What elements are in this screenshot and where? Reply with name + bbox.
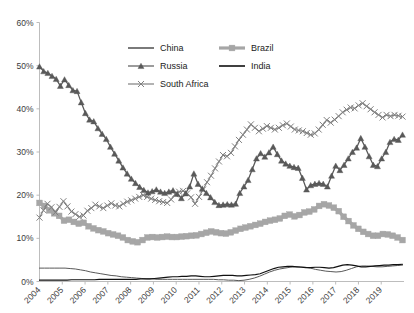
data-point-marker [329, 173, 335, 178]
data-point-marker [196, 194, 202, 200]
data-point-marker [279, 158, 285, 163]
data-point-marker [320, 122, 326, 128]
y-tick-label: 50% [16, 61, 33, 71]
series-russia [37, 64, 406, 208]
data-point-marker [64, 203, 70, 209]
legend-item-china[interactable]: China [128, 43, 184, 53]
data-point-marker [56, 204, 62, 210]
data-point-marker [212, 165, 218, 171]
x-tick-label: 2008 [113, 285, 134, 306]
x-tick-label: 2006 [68, 285, 89, 306]
legend-item-brazil[interactable]: Brazil [219, 43, 274, 53]
data-point-marker [368, 106, 374, 112]
data-point-marker [120, 165, 126, 170]
chart-container: 0%10%20%30%40%50%60% 2004200520062007200… [0, 0, 414, 313]
data-point-marker [87, 117, 93, 122]
legend-item-india[interactable]: India [219, 61, 271, 71]
x-tick-label: 2017 [318, 285, 339, 306]
data-point-marker [333, 163, 339, 168]
data-point-marker [229, 45, 235, 51]
data-point-marker [241, 184, 247, 189]
legend-label: South Africa [160, 79, 209, 89]
y-tick-label: 20% [16, 190, 33, 200]
x-tick-label: 2018 [341, 285, 362, 306]
x-axis: 2004200520062007200820092010201120122013… [22, 282, 404, 306]
data-point-marker [366, 153, 372, 158]
x-tick-label: 2016 [295, 285, 316, 306]
x-tick-label: 2011 [182, 285, 202, 305]
y-tick-label: 0% [21, 277, 34, 287]
data-point-marker [170, 188, 176, 193]
x-tick-label: 2009 [136, 285, 157, 306]
x-tick-label: 2004 [22, 285, 43, 306]
data-point-marker [258, 150, 264, 155]
data-point-marker [370, 162, 376, 167]
legend-label: India [251, 61, 271, 71]
data-point-marker [379, 156, 385, 161]
data-point-marker [187, 184, 193, 189]
data-point-marker [240, 132, 246, 138]
data-point-marker [358, 135, 364, 140]
data-point-marker [341, 162, 347, 167]
legend-label: China [160, 43, 184, 53]
x-tick-label: 2010 [159, 285, 180, 306]
data-point-marker [82, 110, 88, 115]
y-tick-label: 10% [16, 233, 33, 243]
data-point-marker [153, 187, 159, 192]
data-point-marker [245, 177, 251, 182]
data-point-marker [191, 171, 197, 176]
data-point-marker [345, 156, 351, 161]
data-point-marker [37, 64, 43, 69]
data-point-marker [216, 158, 222, 164]
legend-item-south-africa[interactable]: South Africa [128, 79, 209, 89]
data-point-marker [236, 137, 242, 143]
x-tick-label: 2007 [90, 285, 111, 306]
data-point-marker [57, 83, 63, 88]
y-tick-label: 60% [16, 18, 33, 28]
data-point-marker [60, 198, 66, 204]
data-point-marker [400, 132, 406, 137]
data-point-marker [208, 173, 214, 179]
data-point-marker [299, 175, 305, 180]
legend-item-russia[interactable]: Russia [128, 61, 188, 71]
y-tick-label: 40% [16, 104, 33, 114]
data-point-marker [244, 127, 250, 133]
y-axis: 0%10%20%30%40%50%60% [16, 18, 39, 287]
data-point-marker [354, 145, 360, 150]
data-point-marker [107, 144, 113, 149]
data-point-marker [228, 150, 234, 156]
data-point-marker [400, 237, 406, 243]
data-point-marker [237, 190, 243, 195]
data-point-marker [62, 77, 68, 82]
data-point-marker [232, 143, 238, 149]
x-tick-label: 2014 [250, 285, 271, 306]
x-tick-label: 2005 [45, 285, 66, 306]
series-line [40, 265, 403, 281]
chart-legend: ChinaBrazilRussiaIndiaSouth Africa [128, 43, 274, 89]
line-chart: 0%10%20%30%40%50%60% 2004200520062007200… [0, 0, 414, 313]
data-point-marker [270, 144, 276, 149]
x-tick-label: 2013 [227, 285, 248, 306]
data-point-marker [112, 151, 118, 156]
data-point-marker [192, 201, 198, 207]
data-point-marker [195, 181, 201, 186]
x-tick-label: 2012 [204, 285, 225, 306]
data-series-group [37, 64, 406, 281]
data-point-marker [78, 100, 84, 105]
data-point-marker [288, 124, 294, 130]
data-point-marker [188, 194, 194, 200]
data-point-marker [362, 144, 368, 149]
legend-label: Russia [160, 61, 188, 71]
data-point-marker [116, 158, 122, 163]
legend-label: Brazil [251, 43, 274, 53]
data-point-marker [364, 103, 370, 109]
data-point-marker [274, 151, 280, 156]
data-point-marker [249, 166, 255, 171]
data-point-marker [204, 179, 210, 185]
data-point-marker [316, 127, 322, 133]
x-tick-label: 2015 [273, 285, 294, 306]
data-point-marker [336, 208, 342, 214]
series-line [40, 67, 403, 206]
y-tick-label: 30% [16, 147, 33, 157]
data-point-marker [95, 125, 101, 130]
